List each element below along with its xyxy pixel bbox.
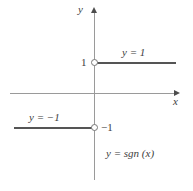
curve-label-negative: y = −1	[29, 112, 60, 123]
curve-segment-negative	[14, 127, 95, 129]
y-axis-label: y	[78, 4, 83, 15]
open-circle-point-negative	[91, 124, 98, 131]
y-tick-label-one: 1	[81, 57, 87, 68]
x-axis-label: x	[173, 96, 178, 107]
function-caption: y = sgn (x)	[106, 148, 154, 159]
y-axis-arrow-icon	[91, 7, 97, 13]
y-tick-label-negative-one: −1	[101, 122, 113, 133]
open-circle-point-positive	[91, 59, 98, 66]
signum-function-plot: y x 1 −1 y = 1 y = −1 y = sgn (x)	[0, 0, 193, 191]
curve-label-positive: y = 1	[122, 47, 145, 58]
curve-segment-positive	[96, 62, 176, 64]
y-axis-line	[94, 12, 95, 180]
